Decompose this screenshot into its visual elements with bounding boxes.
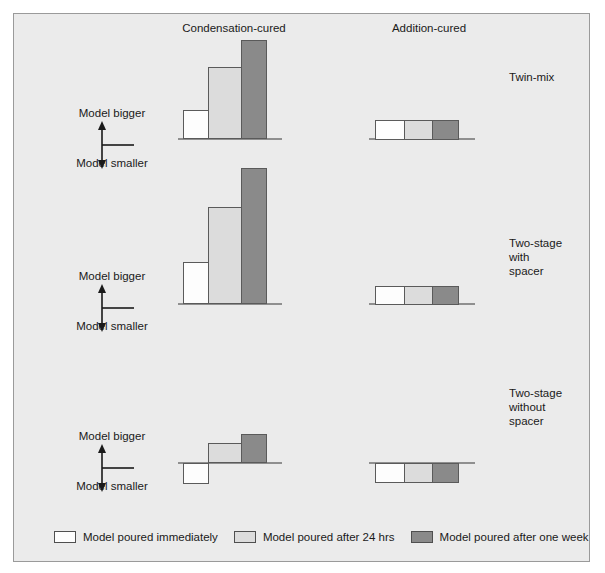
axis-label-smaller-row-2: Model smaller: [76, 320, 148, 332]
bar-immediately: [375, 463, 405, 483]
legend-label-immediately: Model poured immediately: [83, 531, 218, 543]
bar-one-week: [432, 120, 459, 140]
bar-immediately: [375, 120, 405, 140]
chart-frame: Condensation-cured Addition-cured Twin-m…: [13, 13, 590, 562]
bar-one-week: [432, 463, 459, 483]
axis-label-smaller-row-3: Model smaller: [76, 480, 148, 492]
axis-label-bigger-row-2: Model bigger: [79, 270, 145, 282]
panel-twin-mix-condensation: [178, 14, 298, 174]
panel-two-stage-with-spacer-addition: [369, 164, 499, 314]
bar-24hrs: [404, 463, 433, 483]
chart-legend: Model poured immediately Model poured af…: [54, 531, 605, 543]
bar-immediately: [183, 463, 209, 484]
legend-label-one-week: Model poured after one week: [440, 531, 589, 543]
legend-label-24hrs: Model poured after 24 hrs: [263, 531, 395, 543]
bar-24hrs: [208, 443, 242, 463]
bar-24hrs: [404, 286, 433, 305]
panel-twin-mix-addition: [369, 14, 499, 174]
legend-swatch-immediately: [54, 531, 76, 543]
row-label-twin-mix: Twin-mix: [509, 70, 554, 84]
axis-indicator-row-1: Model bigger Model smaller: [59, 107, 165, 169]
row-label-two-stage-with-spacer: Two-stage with spacer: [509, 236, 562, 278]
bar-immediately: [183, 262, 209, 304]
bar-one-week: [241, 168, 267, 304]
panel-two-stage-without-spacer-condensation: [178, 424, 308, 514]
axis-label-smaller-row-1: Model smaller: [76, 157, 148, 169]
legend-item-24hrs: Model poured after 24 hrs: [234, 531, 395, 543]
row-label-two-stage-without-spacer: Two-stage without spacer: [509, 386, 562, 428]
axis-indicator-row-3: Model bigger Model smaller: [59, 430, 165, 492]
bar-one-week: [241, 40, 267, 139]
legend-item-one-week: Model poured after one week: [411, 531, 589, 543]
bar-24hrs: [208, 67, 242, 139]
bar-24hrs: [404, 120, 433, 140]
bar-immediately: [183, 110, 209, 139]
axis-indicator-row-2: Model bigger Model smaller: [59, 270, 165, 332]
axis-label-bigger-row-1: Model bigger: [79, 107, 145, 119]
bar-one-week: [432, 286, 459, 305]
legend-swatch-24hrs: [234, 531, 256, 543]
panel-two-stage-with-spacer-condensation: [178, 164, 298, 314]
axis-label-bigger-row-3: Model bigger: [79, 430, 145, 442]
bar-24hrs: [208, 207, 242, 304]
legend-item-immediately: Model poured immediately: [54, 531, 218, 543]
figure-canvas: Condensation-cured Addition-cured Twin-m…: [0, 0, 605, 573]
bar-one-week: [241, 434, 267, 463]
legend-swatch-one-week: [411, 531, 433, 543]
panel-two-stage-without-spacer-addition: [369, 424, 499, 514]
bar-immediately: [375, 286, 405, 305]
